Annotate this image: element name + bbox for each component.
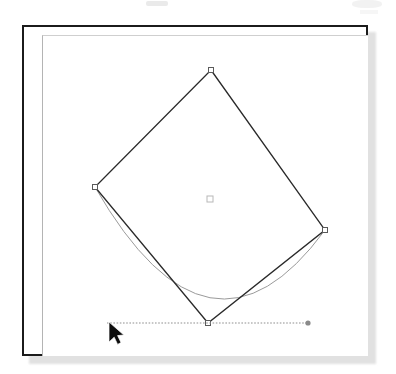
shape-center-marker <box>207 196 213 202</box>
baseline-guide-endpoint[interactable] <box>305 320 310 325</box>
mouse-pointer-icon <box>109 322 124 344</box>
screenshot-root <box>0 0 396 374</box>
scan-smudge-top-right-icon <box>352 0 382 8</box>
scan-smudge-top-right-2-icon <box>360 10 378 14</box>
vertex-handle-top[interactable] <box>209 68 214 73</box>
canvas-frame <box>22 25 368 356</box>
drawing-surface[interactable] <box>24 27 370 358</box>
scan-smudge-top-center-icon <box>146 1 168 6</box>
vertex-handle-right[interactable] <box>323 228 328 233</box>
vertex-handle-left[interactable] <box>93 185 98 190</box>
guide-arc[interactable] <box>95 187 325 299</box>
